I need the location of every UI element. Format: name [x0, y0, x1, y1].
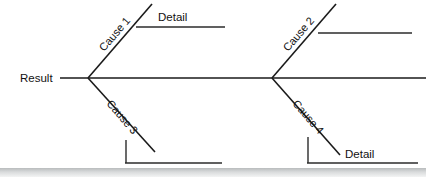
fishbone-diagram: Result Cause 1 Cause 2 Cause 3 Cause 4 D… [0, 0, 426, 177]
detail-4-label: Detail [345, 148, 374, 160]
cause-2-branch-line [272, 4, 336, 78]
cause-3-label: Cause 3 [104, 97, 140, 136]
fishbone-canvas: Result Cause 1 Cause 2 Cause 3 Cause 4 D… [0, 0, 426, 177]
detail-1-label: Detail [158, 11, 187, 23]
bottom-band [0, 168, 426, 177]
result-label: Result [20, 72, 53, 84]
cause-1-branch-line [88, 4, 152, 78]
cause-4-label: Cause 4 [290, 97, 326, 136]
